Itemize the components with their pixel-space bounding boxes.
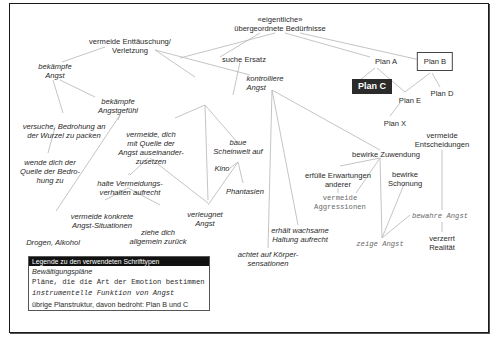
legend-row-instrumentell: instrumentelle Funktion von Angst <box>29 288 209 299</box>
node-bekaempfe-angst: bekämpfe Angst <box>38 62 71 80</box>
node-bewahre-angst: bewahre Angst <box>412 212 468 221</box>
node-plan-c: Plan C <box>352 79 392 94</box>
node-kontrolliere-angst: kontrolliere Angst <box>246 74 283 92</box>
node-drogen: Drogen, Alkohol <box>26 238 80 247</box>
node-plan-x: Plan X <box>384 119 406 128</box>
node-ziehe-dich: ziehe dich allgemein zurück <box>130 228 187 246</box>
legend-row-uebrige: übrige Planstruktur, davon bedroht: Plan… <box>29 299 209 310</box>
node-achtet-koerper: achtet auf Körper- sensationen <box>238 250 299 268</box>
node-vermeide-dich: vermeide, dich mit Quelle der Angst ause… <box>118 130 184 166</box>
node-bewirke-zuwendung: bewirke Zuwendung <box>352 150 420 159</box>
font-legend: Legende zu den verwendeten Schrifttypen … <box>28 256 210 311</box>
node-wende-dich: wende dich der Quelle der Bedro- hung zu <box>20 158 80 185</box>
node-vermeide-entscheidungen: vermeide Entscheidungen <box>415 131 469 149</box>
legend-row-bewaeltigung: Bewältigungspläne <box>29 266 209 277</box>
legend-title: Legende zu den verwendeten Schrifttypen <box>29 257 209 266</box>
node-verleugnet-angst: verleugnet Angst <box>187 210 222 228</box>
node-plan-a: Plan A <box>375 57 397 66</box>
node-plan-e: Plan E <box>399 96 421 105</box>
node-bewirke-schonung: bewirke Schonung <box>388 170 422 188</box>
node-vermeide-konkrete: vermeide konkrete Angst-Situationen <box>71 212 133 230</box>
node-baue-scheinwelt: baue Scheinwelt auf <box>213 138 262 156</box>
node-vermeide-enttaeuschung: vermeide Enttäuschung/ Verletzung <box>89 37 171 55</box>
node-root: «eigentliche» übergeordnete Bedürfnisse <box>234 15 326 33</box>
node-erhaelt-haltung: erhält wachsame Haltung aufrecht <box>271 226 328 244</box>
node-zeige-angst: zeige Angst <box>356 240 403 249</box>
node-plan-d: Plan D <box>431 89 454 98</box>
node-verzerrt-realitaet: verzerrt Realität <box>429 234 455 252</box>
node-bekaempfe-angstgefuehl: bekämpfe Angstgefühl <box>98 97 138 115</box>
node-plan-b: Plan B <box>417 52 453 71</box>
node-kino: Kino <box>214 164 229 173</box>
legend-row-emotion: Pläne, die die Art der Emotion bestimmen <box>29 277 209 288</box>
node-versuche-bedrohung: versuche, Bedrohung an der Wurzel zu pac… <box>23 122 106 140</box>
node-phantasien: Phantasien <box>226 187 264 196</box>
node-vermeide-aggressionen: vermeide Aggressionen <box>314 194 366 212</box>
node-erfuelle: erfülle Erwartungen anderer <box>305 171 371 189</box>
node-suche-ersatz: suche Ersatz <box>222 55 266 64</box>
node-halte-vermeidung: halte Vermeidungs- verhalten aufrecht <box>97 179 163 197</box>
